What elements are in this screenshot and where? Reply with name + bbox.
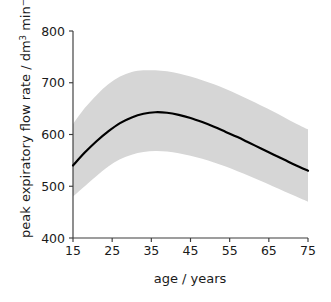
y-axis-title: peak expiratory flow rate / dm3 min−1	[18, 0, 33, 238]
x-tick-label: 75	[300, 243, 316, 258]
x-tick-label: 25	[104, 243, 120, 258]
chart-svg: 400500600700800 15253545556575 age / yea…	[0, 0, 331, 302]
y-tick-label: 700	[41, 75, 65, 90]
y-axis-title-prefix: peak expiratory flow rate / dm	[18, 40, 33, 238]
y-axis-title-sup-inverse: −1	[18, 0, 28, 6]
chart-figure: 400500600700800 15253545556575 age / yea…	[0, 0, 331, 302]
y-tick-label: 500	[41, 179, 65, 194]
x-axis-title: age / years	[154, 271, 227, 286]
x-tick-label: 45	[183, 243, 199, 258]
y-tick-label: 400	[41, 231, 65, 246]
y-tick-label: 800	[41, 24, 65, 39]
y-axis-ticks: 400500600700800	[41, 24, 73, 246]
x-tick-label: 15	[65, 243, 81, 258]
x-tick-label: 35	[143, 243, 159, 258]
x-tick-label: 65	[261, 243, 277, 258]
x-tick-label: 55	[222, 243, 238, 258]
y-tick-label: 600	[41, 127, 65, 142]
confidence-band	[73, 70, 308, 202]
x-axis-ticks: 15253545556575	[65, 238, 316, 258]
y-axis-title-mid: min	[18, 6, 33, 35]
